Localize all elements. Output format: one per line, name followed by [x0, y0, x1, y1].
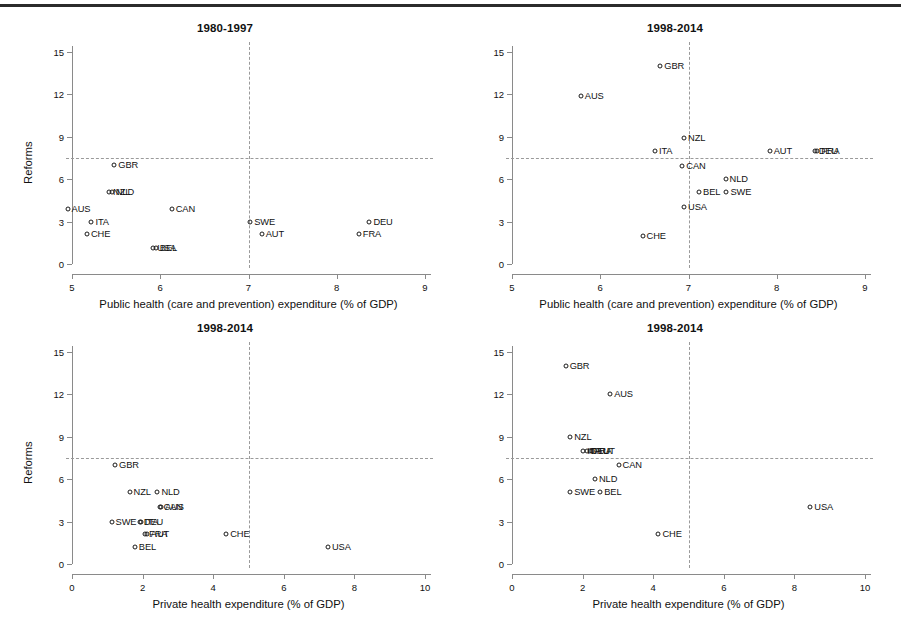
panel-top-right-y-tick: [507, 137, 512, 138]
panel-bottom-left-marker: [113, 463, 118, 468]
panel-top-left-marker: [65, 206, 70, 211]
panel-top-right: 1998-20140369121556789Public health (car…: [450, 0, 900, 315]
panel-bottom-right-x-tick: [865, 574, 866, 579]
panel-bottom-left-point-label: AUT: [151, 529, 169, 539]
panel-top-left-plot-area: 0369121556789Public health (care and pre…: [72, 52, 425, 264]
panel-top-left-point-label: CAN: [176, 204, 195, 214]
panel-bottom-left-point-label: NZL: [134, 487, 151, 497]
panel-top-right-y-tick: [507, 264, 512, 265]
panel-bottom-left-marker: [127, 489, 132, 494]
panel-top-left-point-label: NLD: [116, 187, 134, 197]
panel-top-left-x-tick-label: 6: [158, 282, 163, 293]
panel-bottom-left-point-label: BEL: [139, 542, 156, 552]
panel-top-right-x-tick: [865, 274, 866, 279]
panel-bottom-right-point-label: NLD: [599, 474, 617, 484]
panel-bottom-right-y-tick-label: 12: [478, 389, 504, 400]
panel-top-left-y-tick: [67, 222, 72, 223]
panel-bottom-left-marker: [224, 532, 229, 537]
panel-bottom-right-x-tick-label: 8: [792, 582, 797, 593]
panel-bottom-right-x-axis-title: Private health expenditure (% of GDP): [592, 598, 784, 610]
panel-bottom-right-title: 1998-2014: [450, 322, 900, 334]
panel-bottom-left-y-tick: [67, 564, 72, 565]
panel-bottom-left-x-tick-label: 4: [211, 582, 216, 593]
panel-top-left-x-axis-title: Public health (care and prevention) expe…: [99, 298, 397, 310]
panel-bottom-left-x-tick-label: 8: [352, 582, 357, 593]
panel-top-right-x-tick-label: 7: [686, 282, 691, 293]
panel-bottom-left-marker: [132, 545, 137, 550]
panel-bottom-right-marker: [568, 489, 573, 494]
panel-top-left-vertical-reference-line: [249, 42, 250, 268]
panel-top-left-y-tick-label: 12: [38, 89, 64, 100]
panel-bottom-right-marker: [808, 505, 813, 510]
panel-top-right-y-tick: [507, 94, 512, 95]
panel-bottom-left-x-tick-label: 2: [140, 582, 145, 593]
panel-bottom-left-y-tick: [67, 352, 72, 353]
panel-top-right-title: 1998-2014: [450, 22, 900, 34]
panel-bottom-right-y-tick: [507, 352, 512, 353]
panel-top-left-y-tick-label: 3: [38, 216, 64, 227]
panel-bottom-right-x-tick-label: 6: [721, 582, 726, 593]
panel-top-right-point-label: FRA: [821, 146, 839, 156]
panel-bottom-right-marker: [598, 489, 603, 494]
panel-top-right-point-label: BEL: [703, 187, 720, 197]
panel-bottom-right-y-tick-label: 15: [478, 347, 504, 358]
panel-top-right-x-axis: [512, 274, 871, 275]
panel-bottom-right-y-axis: [512, 346, 513, 564]
panel-top-right-marker: [723, 177, 728, 182]
panel-top-right-point-label: CHE: [647, 231, 666, 241]
panel-bottom-left-x-tick: [143, 574, 144, 579]
panel-top-left-point-label: DEU: [373, 217, 392, 227]
panel-bottom-left-x-tick-label: 0: [69, 582, 74, 593]
panel-bottom-left-y-axis-title: Reforms: [22, 441, 34, 484]
panel-top-right-marker: [652, 148, 657, 153]
panel-top-left-x-tick: [425, 274, 426, 279]
panel-top-right-point-label: CAN: [686, 161, 705, 171]
panel-top-left-marker: [85, 232, 90, 237]
panel-top-left-point-label: CHE: [91, 229, 110, 239]
panel-bottom-right-point-label: BEL: [604, 487, 621, 497]
panel-top-right-point-label: AUT: [774, 146, 792, 156]
panel-top-right-x-tick: [600, 274, 601, 279]
panel-bottom-left-point-label: GBR: [119, 460, 139, 470]
panel-bottom-right-y-tick: [507, 522, 512, 523]
panel-top-left-marker: [153, 246, 158, 251]
panel-bottom-right-y-tick-label: 6: [478, 474, 504, 485]
panel-top-left-x-tick-label: 7: [246, 282, 251, 293]
panel-bottom-left-x-axis-title: Private health expenditure (% of GDP): [152, 598, 344, 610]
panel-top-right-point-label: SWE: [730, 187, 751, 197]
panel-bottom-left-x-tick: [284, 574, 285, 579]
panel-top-right-y-axis: [512, 46, 513, 264]
panel-bottom-left-point-label: ITA: [145, 517, 158, 527]
panel-top-left-marker: [112, 163, 117, 168]
panel-top-left-y-tick: [67, 179, 72, 180]
panel-top-right-marker: [658, 64, 663, 69]
panel-top-right-y-tick-label: 3: [478, 216, 504, 227]
panel-top-right-point-label: NZL: [688, 133, 705, 143]
panel-bottom-right-y-tick: [507, 437, 512, 438]
panel-top-right-x-axis-title: Public health (care and prevention) expe…: [539, 298, 837, 310]
panel-top-right-marker: [640, 233, 645, 238]
figure-panel-grid: 1980-19970369121556789Public health (car…: [0, 0, 901, 631]
panel-top-right-y-tick-label: 9: [478, 131, 504, 142]
panel-top-left-marker: [356, 232, 361, 237]
panel-top-left-x-tick: [337, 274, 338, 279]
panel-bottom-left-x-tick-label: 6: [281, 582, 286, 593]
panel-top-right-x-tick: [777, 274, 778, 279]
panel-bottom-right: 1998-2014036912150246810Private health e…: [450, 316, 900, 631]
panel-bottom-right-x-tick: [724, 574, 725, 579]
panel-bottom-right-point-label: AUS: [614, 389, 633, 399]
panel-top-left-point-label: SWE: [254, 217, 275, 227]
panel-top-left-x-axis: [72, 274, 431, 275]
panel-top-left-y-tick-label: 6: [38, 174, 64, 185]
panel-bottom-right-marker: [568, 434, 573, 439]
panel-bottom-right-point-label: GBR: [570, 361, 590, 371]
panel-bottom-right-marker: [592, 477, 597, 482]
panel-top-left-marker: [109, 189, 114, 194]
panel-bottom-right-marker: [563, 364, 568, 369]
panel-bottom-right-marker: [590, 448, 595, 453]
panel-bottom-right-x-tick-label: 2: [580, 582, 585, 593]
panel-bottom-left-plot-area: 036912150246810Private health expenditur…: [72, 352, 425, 564]
panel-bottom-left-x-tick: [425, 574, 426, 579]
panel-bottom-right-x-tick: [653, 574, 654, 579]
panel-bottom-left-point-label: USA: [332, 542, 351, 552]
